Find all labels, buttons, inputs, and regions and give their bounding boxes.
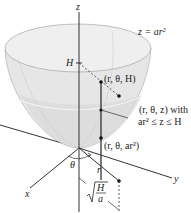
paraboloid-rim	[5, 24, 151, 72]
theta-label: θ	[70, 159, 75, 170]
h-label: H	[65, 57, 74, 68]
point-top-label: (r, θ, H)	[104, 73, 136, 85]
point-bottom-label: (r, θ, ar²)	[104, 140, 139, 152]
point-bottom	[99, 136, 103, 140]
point-top	[99, 80, 103, 84]
surface-label: z = ar²	[137, 26, 167, 37]
radius-label: r	[97, 164, 101, 175]
rim-point	[117, 94, 121, 98]
fraction-numerator: H	[96, 182, 105, 193]
y-axis	[79, 148, 172, 178]
point-middle-label: (r, θ, z) with	[139, 104, 188, 116]
x-axis-label: x	[24, 188, 30, 199]
point-middle-condition: ar² ≤ z ≤ H	[138, 116, 181, 127]
paraboloid-diagram: z z = ar² H (r, θ, H) (r, θ, z) with ar²…	[0, 0, 191, 213]
fraction-denominator: a	[98, 193, 103, 204]
z-axis-label: z	[75, 1, 80, 12]
y-axis-label: y	[173, 173, 179, 184]
